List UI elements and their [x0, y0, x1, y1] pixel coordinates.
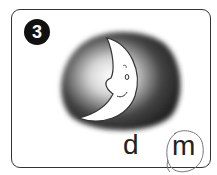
number-badge: 3	[24, 19, 50, 45]
moon-icon	[55, 26, 185, 136]
selection-circle-icon	[160, 128, 206, 174]
option-d[interactable]: d	[123, 131, 139, 159]
